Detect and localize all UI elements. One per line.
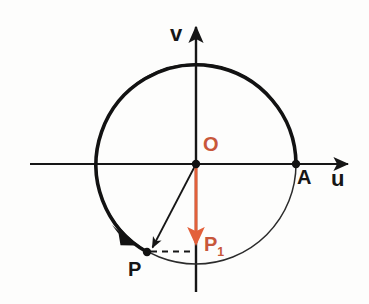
point-label-P1-base: P — [204, 233, 217, 255]
arc-direction-arrow — [112, 225, 135, 246]
point-marker-O — [192, 160, 200, 168]
v-axis-label: v — [170, 23, 182, 45]
diagram-canvas — [0, 0, 369, 304]
point-label-A: A — [297, 167, 311, 187]
point-label-P: P — [128, 259, 141, 279]
point-marker-P — [143, 248, 151, 256]
radius-vector-OP — [153, 164, 197, 248]
v-axis-line — [27, 164, 196, 292]
point-label-P1-subscript: 1 — [217, 245, 224, 259]
unit-circle-diagram: v u A P O P1 — [0, 0, 369, 304]
point-label-O: O — [203, 134, 219, 154]
point-label-P1: P1 — [204, 234, 224, 258]
u-axis-label: u — [331, 168, 344, 190]
